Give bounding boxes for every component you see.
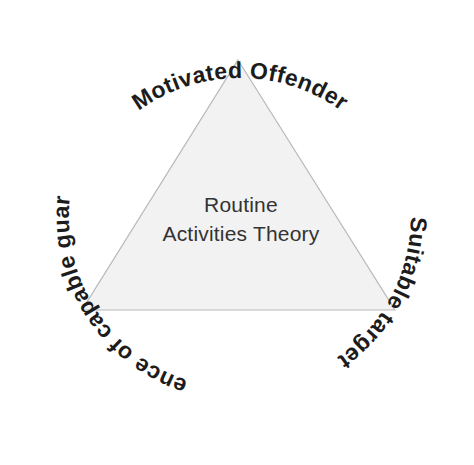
diagram-canvas: Routine Activities Theory Motivated Offe… [0,0,474,465]
center-label-line1: Routine [204,193,278,216]
center-label-line2: Activities Theory [162,222,319,245]
routine-activities-theory-diagram: Routine Activities Theory Motivated Offe… [0,0,474,465]
